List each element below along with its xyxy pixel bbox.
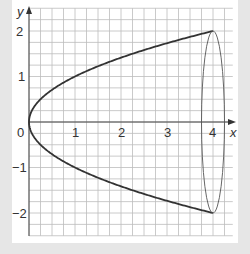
- y-tick-minus-1: −1: [12, 160, 27, 175]
- y-tick-2: 2: [16, 24, 23, 39]
- x-tick-4: 4: [209, 125, 216, 140]
- x-tick-2: 2: [118, 125, 125, 140]
- x-axis-label: x: [229, 125, 237, 140]
- chart-svg: y x 0 1 2 3 4 2 1 −1 −2: [0, 0, 250, 254]
- y-axis-label: y: [16, 4, 25, 19]
- y-tick-1: 1: [18, 69, 25, 84]
- x-tick-3: 3: [164, 125, 171, 140]
- y-tick-minus-2: −2: [12, 206, 27, 221]
- y-axis-arrow-icon: [26, 6, 32, 14]
- x-tick-0: 0: [17, 125, 24, 140]
- x-tick-1: 1: [72, 125, 79, 140]
